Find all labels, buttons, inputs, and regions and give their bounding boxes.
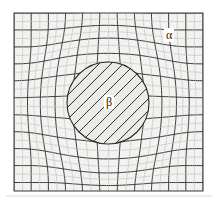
mesh-figure: α β — [0, 0, 218, 202]
phase-label-beta: β — [104, 95, 114, 109]
phase-label-alpha: α — [164, 28, 174, 42]
